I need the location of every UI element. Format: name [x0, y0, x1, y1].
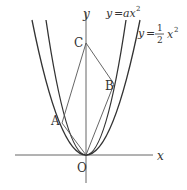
svg-text:ax: ax: [123, 7, 137, 20]
svg-text:1: 1: [157, 23, 163, 33]
segment-OA: [62, 123, 86, 155]
svg-text:y: y: [137, 27, 145, 40]
inner-parabola-equation: y = ax 2: [105, 5, 140, 20]
svg-text:=: =: [114, 7, 123, 20]
x-axis-label: x: [157, 149, 164, 163]
point-A-label: A: [50, 114, 60, 128]
diagram-canvas: y x O C A B y = ax 2 y = 1 2 x 2: [0, 0, 187, 190]
svg-text:y: y: [105, 7, 113, 20]
segment-CA: [62, 43, 86, 123]
svg-text:x: x: [167, 28, 174, 41]
y-axis-label: y: [82, 7, 90, 21]
point-B-label: B: [105, 79, 114, 93]
outer-parabola-equation: y = 1 2 x 2: [137, 23, 178, 45]
point-C-label: C: [74, 36, 83, 50]
svg-text:=: =: [146, 27, 155, 40]
svg-text:2: 2: [174, 26, 178, 34]
origin-label: O: [77, 161, 87, 175]
segment-OB: [86, 84, 114, 155]
segment-CB: [86, 43, 114, 84]
svg-text:2: 2: [136, 5, 140, 13]
svg-text:2: 2: [157, 35, 163, 45]
